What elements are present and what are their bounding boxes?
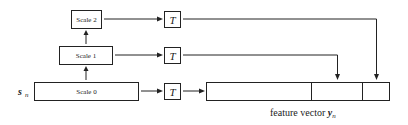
input-label: s n [17, 86, 29, 99]
arrow-scale1-to-scale2 [84, 30, 89, 44]
transform-label: T [169, 86, 176, 98]
input-subscript: n [25, 91, 29, 99]
arrow-right-icon [199, 89, 205, 94]
scale-2-label: Scale 2 [76, 16, 97, 24]
feature-vector [207, 83, 390, 101]
arrow-scale0-to-t [141, 89, 163, 94]
arrow-down-icon [335, 74, 340, 80]
scale-1-box: Scale 1 [60, 47, 113, 65]
arrow-down-icon [374, 74, 379, 80]
arrow-right-icon [157, 89, 163, 94]
arrow-up-icon [84, 30, 89, 35]
arrow-t1-to-feature [183, 55, 340, 80]
feature-vector-caption: feature vector yn [270, 107, 336, 120]
arrow-t0-to-feature [183, 89, 205, 94]
scale-1-label: Scale 1 [76, 52, 97, 60]
input-symbol: s [17, 86, 22, 97]
arrow-right-icon [157, 17, 163, 22]
arrow-up-icon [84, 66, 89, 71]
scale-2-box: Scale 2 [72, 11, 102, 29]
scale-0-label: Scale 0 [76, 88, 97, 96]
arrow-scale1-to-t [115, 53, 163, 58]
transform-label: T [169, 50, 176, 62]
arrow-scale2-to-t [104, 17, 163, 22]
caption-text: feature vector yn [270, 107, 336, 120]
transform-label: T [169, 14, 176, 26]
arrow-t2-to-feature [183, 19, 379, 80]
arrow-right-icon [157, 53, 163, 58]
multiscale-feature-diagram: s n Scale 2 Scale 1 Scale 0 T [0, 0, 408, 125]
arrow-scale0-to-scale1 [84, 66, 89, 80]
scale-0-box: Scale 0 [35, 83, 139, 101]
transform-box-row-2: T [165, 12, 181, 28]
transform-box-row-1: T [165, 48, 181, 64]
output-subscript: n [332, 112, 336, 120]
transform-box-row-0: T [165, 84, 181, 100]
